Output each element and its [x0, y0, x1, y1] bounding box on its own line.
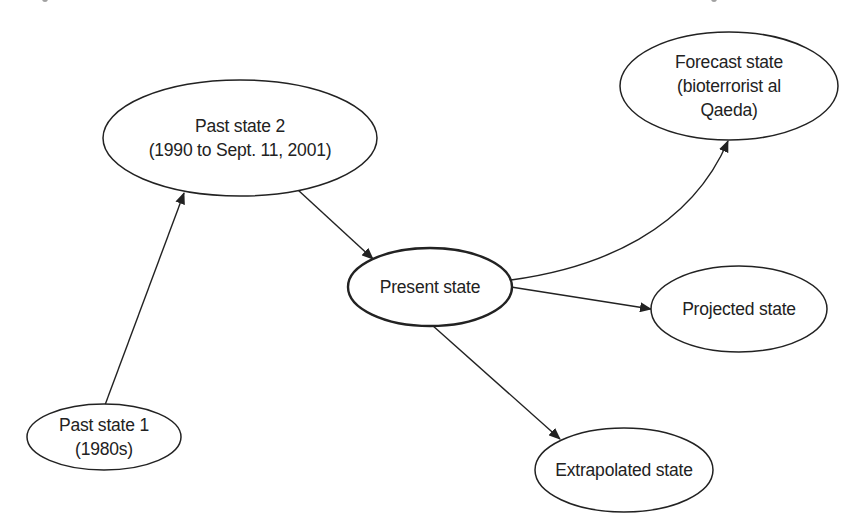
edge-present-to-extrapolated [432, 325, 560, 439]
label-line: Forecast state [675, 50, 783, 74]
label-forecast-state: Forecast state (bioterrorist al Qaeda) [620, 32, 838, 140]
label-past-state-1: Past state 1 (1980s) [27, 404, 181, 470]
diagram-canvas: Past state 1 (1980s) Past state 2 (1990 … [0, 0, 860, 531]
label-line: (1990 to Sept. 11, 2001) [149, 138, 332, 162]
label-line: Extrapolated state [555, 458, 692, 482]
label-past-state-2: Past state 2 (1990 to Sept. 11, 2001) [103, 80, 377, 196]
label-line: Past state 2 [195, 114, 285, 138]
label-extrapolated-state: Extrapolated state [535, 428, 713, 512]
label-present-state: Present state [348, 248, 512, 326]
edge-past1-to-past2 [105, 193, 184, 405]
label-line: Past state 1 [59, 413, 149, 437]
edge-present-to-forecast [511, 141, 728, 280]
label-line: Qaeda) [700, 98, 757, 122]
label-line: Present state [380, 275, 481, 299]
label-line: (bioterrorist al [677, 74, 781, 98]
label-line: Projected state [682, 297, 796, 321]
edge-present-to-projected [511, 287, 651, 309]
label-line: (1980s) [75, 437, 133, 461]
label-projected-state: Projected state [651, 266, 827, 352]
